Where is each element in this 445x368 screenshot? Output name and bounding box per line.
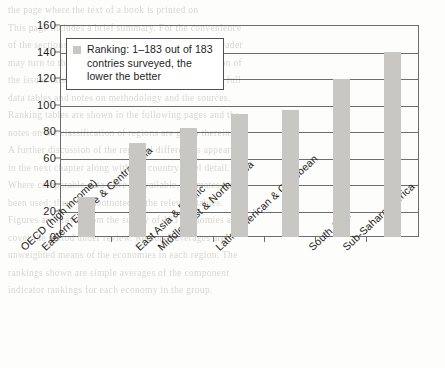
chart-legend: Ranking: 1–183 out of 183 contries surve… xyxy=(66,38,224,90)
y-axis-label-160: 160 xyxy=(8,19,56,31)
x-tick-mark-6 xyxy=(366,237,367,242)
bar-latin-american-caribbean[interactable] xyxy=(282,110,299,237)
bar-eastern-europe-central-asia[interactable] xyxy=(129,143,146,237)
x-tick-mark-4 xyxy=(264,237,265,242)
y-axis-label-120: 120 xyxy=(8,72,56,84)
y-axis-label-80: 80 xyxy=(8,125,56,137)
bar-middle-east-north-africa[interactable] xyxy=(231,114,248,237)
bar-south-asia[interactable] xyxy=(333,79,350,237)
legend-label: Ranking: 1–183 out of 183 contries surve… xyxy=(87,43,215,84)
bar-oecd-high-income[interactable] xyxy=(78,197,95,237)
y-axis-label-140: 140 xyxy=(8,46,56,58)
chart-surface: 160 140 120 100 80 60 40 20 0 OECD (high… xyxy=(0,0,445,368)
y-axis-label-100: 100 xyxy=(8,99,56,111)
bar-chart-figure: 160 140 120 100 80 60 40 20 0 OECD (high… xyxy=(0,0,445,368)
x-tick-mark-3 xyxy=(213,237,214,242)
legend-color-swatch-icon xyxy=(73,46,81,54)
legend-label-line-1: Ranking: 1–183 out of xyxy=(87,43,192,55)
y-axis-label-60: 60 xyxy=(8,152,56,164)
x-tick-mark-1 xyxy=(111,237,112,242)
bar-east-asia-pacific[interactable] xyxy=(180,128,197,237)
y-axis-label-40: 40 xyxy=(8,178,56,190)
bar-sub-saharan-africa[interactable] xyxy=(384,52,401,238)
